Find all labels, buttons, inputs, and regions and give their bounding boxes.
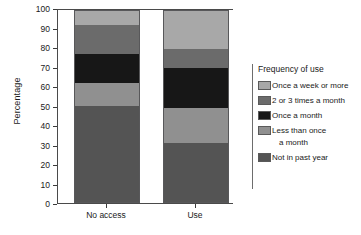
x-tick-label: No access	[66, 210, 146, 220]
legend-label: Less than once	[272, 126, 326, 135]
legend-label: Not in past year	[272, 153, 328, 162]
legend-swatch	[258, 126, 271, 135]
bar-segment[interactable]	[163, 108, 229, 143]
y-axis-label: Percentage	[12, 56, 22, 146]
legend-items: Once a week or more2 or 3 times a monthO…	[252, 81, 361, 162]
bar-segment[interactable]	[74, 10, 140, 25]
stacked-bar[interactable]	[74, 10, 140, 203]
legend-item[interactable]: 2 or 3 times a month	[258, 96, 361, 105]
legend-title: Frequency of use	[258, 64, 361, 74]
legend-label-continuation: a month	[279, 138, 361, 147]
y-tick-label: 0	[24, 200, 50, 208]
legend-item[interactable]: Not in past year	[258, 153, 361, 162]
y-tick-label: 10	[24, 181, 50, 189]
stacked-bar-chart: Percentage 1009080706050403020100 No acc…	[0, 0, 361, 235]
legend-swatch	[258, 111, 271, 120]
stacked-bar[interactable]	[163, 10, 229, 203]
bar-segment[interactable]	[74, 54, 140, 83]
legend-label: Once a week or more	[272, 81, 348, 90]
y-tick-label: 90	[24, 25, 50, 33]
legend: Frequency of use Once a week or more2 or…	[252, 64, 361, 168]
legend-swatch	[258, 81, 271, 90]
bars-container	[58, 10, 233, 203]
legend-item[interactable]: Once a week or more	[258, 81, 361, 90]
legend-label: 2 or 3 times a month	[272, 96, 345, 105]
legend-item[interactable]: Less than once	[258, 126, 361, 135]
bar-segment[interactable]	[74, 25, 140, 54]
legend-label: Once a month	[272, 111, 322, 120]
legend-swatch	[258, 96, 271, 105]
y-tick-label: 40	[24, 122, 50, 130]
y-tick-label: 20	[24, 161, 50, 169]
legend-swatch	[258, 153, 271, 162]
y-tick-label: 60	[24, 83, 50, 91]
x-tick-label: Use	[155, 210, 235, 220]
y-tick-label: 70	[24, 64, 50, 72]
bar-segment[interactable]	[163, 49, 229, 68]
x-tick-mark	[195, 204, 196, 208]
legend-item[interactable]: Once a month	[258, 111, 361, 120]
plot-area	[57, 9, 233, 204]
bar-segment[interactable]	[74, 83, 140, 106]
bar-segment[interactable]	[163, 10, 229, 49]
y-tick-label: 30	[24, 142, 50, 150]
y-tick-label: 100	[24, 5, 50, 13]
y-axis-ticks: 1009080706050403020100	[22, 0, 50, 235]
bar-segment[interactable]	[163, 143, 229, 203]
bar-segment[interactable]	[74, 106, 140, 203]
y-tick-mark	[53, 204, 57, 205]
x-tick-mark	[106, 204, 107, 208]
bar-segment[interactable]	[163, 68, 229, 109]
y-tick-label: 50	[24, 103, 50, 111]
y-tick-label: 80	[24, 44, 50, 52]
